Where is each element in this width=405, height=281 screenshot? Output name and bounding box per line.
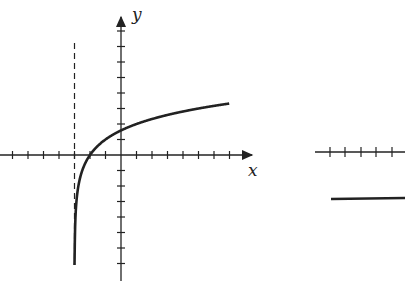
main-graph	[0, 17, 252, 281]
x-axis-label: x	[248, 160, 258, 180]
partial-second-graph	[315, 147, 405, 199]
graph-canvas: x y	[0, 0, 405, 281]
y-axis-label: y	[131, 4, 142, 24]
